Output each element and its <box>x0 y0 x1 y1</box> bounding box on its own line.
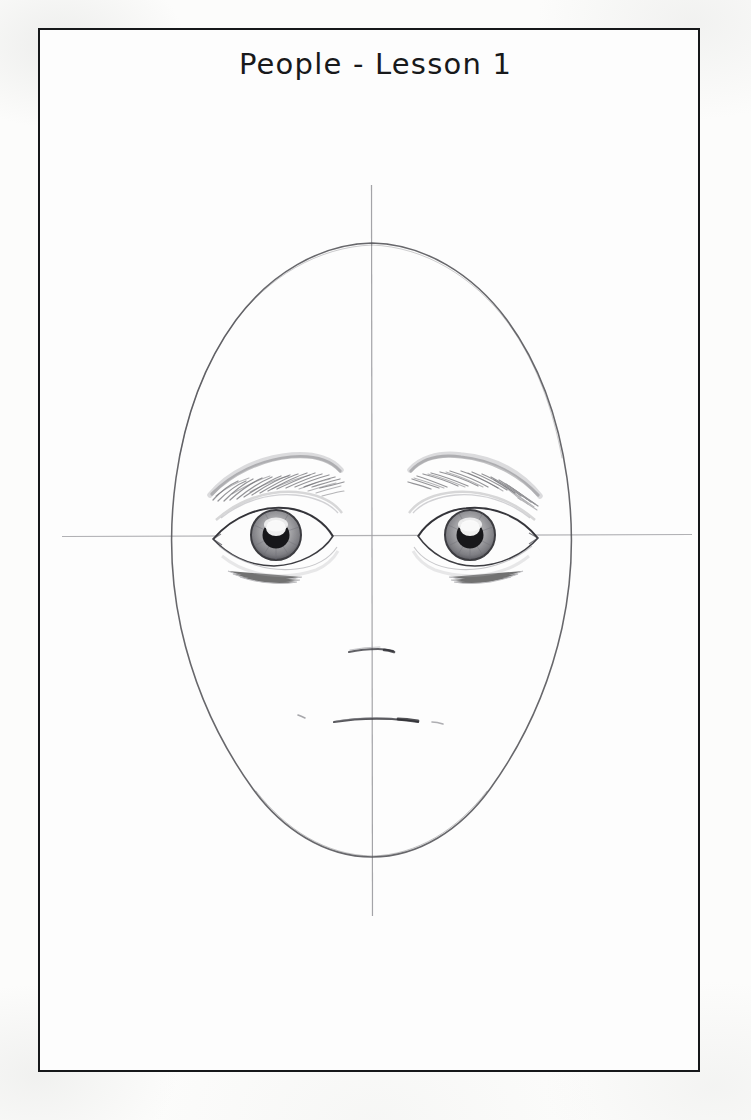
artwork-frame-border <box>38 28 700 1072</box>
page-title: People - Lesson 1 <box>0 47 751 81</box>
page-canvas: People - Lesson 1 <box>0 0 751 1120</box>
